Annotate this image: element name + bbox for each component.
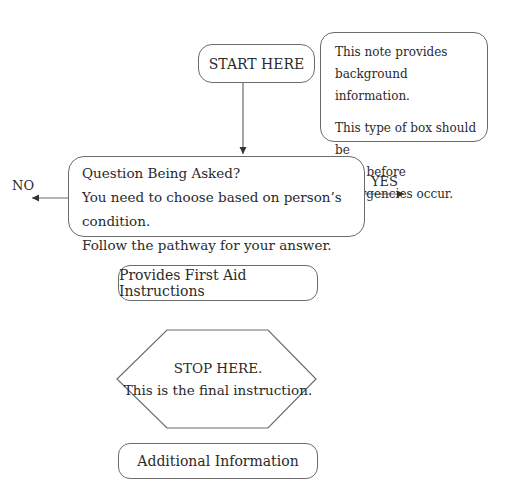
start-here-box: START HERE [198, 44, 315, 83]
start-here-label: START HERE [209, 56, 305, 72]
additional-information-label: Additional Information [137, 453, 298, 469]
note-line: This type of box should be [335, 117, 477, 161]
background-note-box: This note provides background informatio… [320, 32, 488, 142]
additional-information-box: Additional Information [118, 443, 318, 479]
question-line: Follow the pathway for your answer. [82, 233, 364, 257]
stop-here-text: STOP HERE. This is the final instruction… [118, 330, 318, 428]
note-line: This note provides [335, 41, 477, 63]
question-box: Question Being Asked? You need to choose… [68, 156, 365, 237]
question-title: Question Being Asked? [82, 161, 364, 185]
no-label: NO [12, 178, 34, 193]
yes-label: YES [371, 174, 398, 189]
note-line: background information. [335, 63, 477, 107]
stop-line-2: This is the final instruction. [124, 379, 312, 401]
first-aid-label: Provides First Aid Instructions [119, 267, 317, 299]
stop-line-1: STOP HERE. [174, 357, 263, 379]
first-aid-instructions-box: Provides First Aid Instructions [118, 265, 318, 301]
question-line: You need to choose based on person’s con… [82, 185, 364, 233]
